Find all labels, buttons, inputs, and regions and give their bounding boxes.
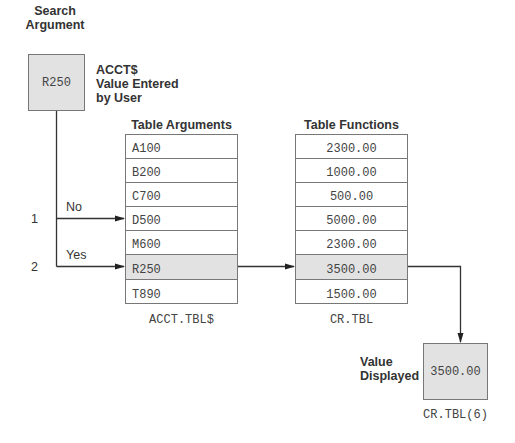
search-argument-title: Search Argument — [20, 4, 90, 32]
step-1-number: 1 — [31, 212, 38, 226]
argument-row: D500 — [126, 207, 237, 231]
function-row: 1500.00 — [296, 280, 407, 304]
search-argument-box: R250 — [28, 54, 85, 111]
arguments-table-header: Table Arguments — [125, 118, 238, 132]
function-row: 5000.00 — [296, 207, 407, 231]
function-row-highlighted: 3500.00 — [296, 255, 407, 279]
search-note: ACCT$ Value Entered by User — [96, 63, 179, 105]
arguments-table-caption: ACCT.TBL$ — [125, 313, 238, 327]
arrow-function-to-display — [408, 267, 461, 343]
value-displayed-value: 3500.00 — [430, 365, 480, 379]
value-displayed-caption: CR.TBL(6) — [413, 408, 498, 422]
argument-row: A100 — [126, 135, 237, 159]
search-note-line2: Value Entered — [96, 77, 179, 91]
function-row: 2300.00 — [296, 231, 407, 255]
step-2-number: 2 — [31, 260, 38, 274]
functions-table-header: Table Functions — [295, 118, 408, 132]
value-displayed-box: 3500.00 — [423, 343, 488, 400]
search-title-line2: Argument — [20, 18, 90, 32]
argument-row-highlighted: R250 — [126, 255, 237, 279]
search-note-line3: by User — [96, 91, 179, 105]
argument-row: T890 — [126, 280, 237, 304]
argument-row: C700 — [126, 183, 237, 207]
function-row: 500.00 — [296, 183, 407, 207]
functions-table-caption: CR.TBL — [295, 313, 408, 327]
value-displayed-line1: Value — [360, 355, 419, 369]
step-2-label: Yes — [66, 248, 86, 262]
arguments-table: A100 B200 C700 D500 M600 R250 T890 — [125, 134, 238, 304]
search-note-line1: ACCT$ — [96, 63, 179, 77]
functions-table: 2300.00 1000.00 500.00 5000.00 2300.00 3… — [295, 134, 408, 304]
step-1-label: No — [66, 200, 82, 214]
search-argument-value: R250 — [42, 76, 71, 90]
function-row: 1000.00 — [296, 159, 407, 183]
function-row: 2300.00 — [296, 135, 407, 159]
argument-row: M600 — [126, 231, 237, 255]
value-displayed-label: Value Displayed — [360, 355, 419, 383]
search-title-line1: Search — [20, 4, 90, 18]
argument-row: B200 — [126, 159, 237, 183]
value-displayed-line2: Displayed — [360, 369, 419, 383]
